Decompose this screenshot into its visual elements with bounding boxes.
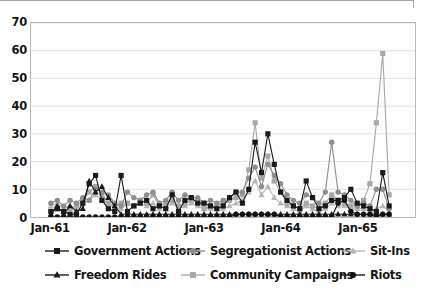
legend-swatch [180, 269, 206, 281]
legend-item-government-actions[interactable]: Government Actions [44, 244, 201, 258]
data-point [335, 198, 340, 203]
data-point [265, 212, 270, 217]
legend-item-label: Community Campaigns [210, 268, 353, 282]
data-point [374, 120, 379, 125]
legend-item-segregationist-actions[interactable]: Segregationist Actions [180, 244, 351, 258]
square-marker-icon [180, 269, 206, 281]
data-point [163, 206, 168, 211]
data-point [265, 131, 270, 136]
data-point [329, 198, 334, 203]
x-axis-tick-label: Jan-65 [338, 221, 377, 235]
data-point [284, 198, 289, 203]
figure-top-border [0, 0, 414, 8]
x-axis-tick-label: Jan-62 [107, 221, 146, 235]
y-axis-tick-label: 10 [12, 183, 27, 197]
data-point [80, 214, 85, 217]
data-point [214, 200, 219, 205]
data-point [304, 201, 309, 206]
data-point [355, 212, 360, 217]
y-axis: 010203040506070 [0, 22, 30, 218]
data-point [246, 212, 251, 217]
y-axis-tick-label: 60 [12, 43, 27, 57]
data-point [208, 198, 213, 203]
square-marker-icon [44, 245, 70, 257]
data-point [367, 181, 372, 186]
data-point [131, 203, 136, 208]
data-point [374, 187, 379, 192]
data-point [131, 195, 136, 200]
data-point [106, 206, 111, 211]
circle-marker-icon [340, 269, 366, 281]
data-point [252, 164, 257, 169]
data-point [87, 181, 92, 186]
legend-swatch [180, 245, 206, 257]
data-point [323, 189, 328, 194]
data-point [163, 198, 168, 203]
data-point [278, 189, 283, 194]
legend-item-label: Freedom Rides [74, 268, 166, 282]
legend-item-label: Sit-Ins [370, 244, 410, 258]
chart-legend: Government ActionsSegregationist Actions… [0, 244, 426, 296]
data-point [182, 192, 187, 197]
data-point [67, 198, 72, 203]
data-point [240, 201, 245, 206]
data-point [367, 206, 372, 211]
data-point [221, 203, 226, 208]
data-point [329, 139, 334, 144]
data-point [87, 214, 92, 217]
legend-item-community-campaigns[interactable]: Community Campaigns [180, 268, 353, 282]
y-axis-tick-label: 0 [19, 211, 27, 225]
data-point [150, 200, 156, 206]
data-point [233, 212, 238, 217]
data-point [80, 201, 85, 206]
data-point [329, 192, 334, 197]
data-point [323, 203, 328, 208]
data-point [259, 184, 264, 189]
data-point [386, 212, 391, 217]
x-axis-tick-label: Jan-64 [261, 221, 300, 235]
data-point [240, 212, 245, 217]
data-point [272, 178, 277, 183]
data-point [253, 120, 258, 125]
data-point [380, 212, 385, 217]
data-point [118, 203, 123, 208]
data-point [112, 214, 117, 217]
data-point [265, 153, 270, 158]
data-point [310, 195, 315, 200]
triangle-marker-icon [44, 269, 70, 281]
circle-marker-icon [180, 245, 206, 257]
data-point [310, 203, 315, 208]
data-point [367, 212, 372, 217]
legend-item-freedom-rides[interactable]: Freedom Rides [44, 268, 166, 282]
data-point [48, 200, 53, 205]
data-point [361, 203, 366, 208]
data-point [55, 206, 60, 211]
data-point [303, 192, 308, 197]
data-point [380, 51, 385, 56]
data-point [99, 183, 105, 189]
data-point [348, 187, 353, 192]
data-point [284, 192, 289, 197]
data-point [342, 195, 347, 200]
data-point [125, 189, 130, 194]
legend-item-riots[interactable]: Riots [340, 268, 402, 282]
data-point [112, 209, 117, 214]
data-point [150, 206, 155, 211]
data-point [380, 170, 385, 175]
data-point [297, 206, 302, 211]
data-point [138, 201, 143, 206]
data-point [374, 209, 379, 214]
data-point [271, 194, 277, 200]
data-point [208, 203, 213, 208]
legend-swatch [340, 269, 366, 281]
data-point [119, 173, 124, 178]
data-point [246, 187, 251, 192]
data-point [316, 206, 321, 211]
y-axis-tick-label: 70 [12, 15, 27, 29]
y-axis-tick-label: 30 [12, 127, 27, 141]
data-point [176, 198, 181, 203]
data-point [361, 212, 366, 217]
data-point [74, 212, 79, 217]
data-point [355, 201, 360, 206]
legend-item-sit-ins[interactable]: Sit-Ins [340, 244, 410, 258]
